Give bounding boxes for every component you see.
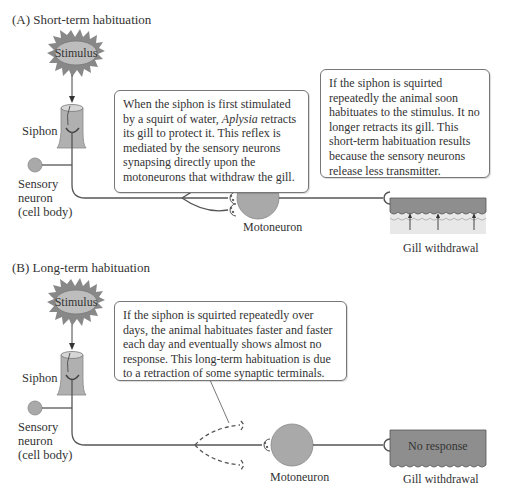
stimulus-label-b: Stimulus	[55, 295, 98, 309]
gill-label-a: Gill withdrawal	[403, 241, 479, 256]
sensory-neuron-label-a: Sensory neuron (cell body)	[18, 177, 73, 219]
stimulus-label-a: Stimulus	[55, 46, 98, 60]
motoneuron-b	[271, 424, 313, 466]
panel-b-title: (B) Long-term habituation	[12, 260, 150, 276]
gill-icon-a	[390, 198, 486, 234]
gill-no-response-text: No response	[408, 439, 468, 454]
callout-long-term-habituation: If the siphon is squirted repeatedly ove…	[114, 301, 347, 381]
callout-short-term-habituation: If the siphon is squirted repeatedly the…	[320, 69, 490, 178]
siphon-label-b: Siphon	[22, 371, 57, 385]
sensory-cell-body-b	[28, 401, 42, 415]
siphon-label-a: Siphon	[22, 124, 57, 138]
sensory-neuron-label-b: Sensory neuron (cell body)	[18, 420, 73, 462]
callout-short-term-mechanism: When the siphon is first stimulated by a…	[114, 90, 309, 193]
gill-label-b: Gill withdrawal	[403, 472, 479, 487]
motoneuron-label-a: Motoneuron	[243, 220, 302, 234]
synaptic-terminal-b	[264, 439, 270, 451]
motoneuron-label-b: Motoneuron	[270, 470, 329, 484]
sensory-cell-body-a	[28, 158, 42, 172]
sensory-axon-b	[72, 380, 262, 445]
